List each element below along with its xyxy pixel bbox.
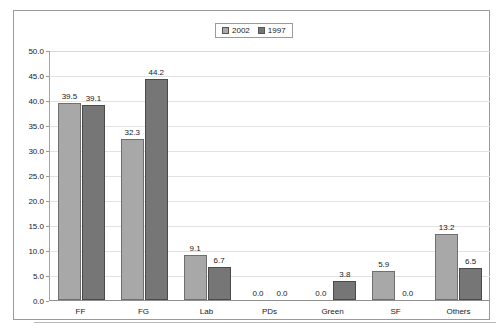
plot-area: 39.539.132.344.29.16.70.00.00.03.85.90.0… xyxy=(49,51,490,301)
x-axis-tick-label: Others xyxy=(427,307,490,316)
y-axis-tick-label: 30.0 xyxy=(28,147,44,156)
bar-group: 5.90.0 xyxy=(364,51,427,300)
bar-group: 13.26.5 xyxy=(427,51,490,300)
bar[interactable] xyxy=(333,281,356,300)
legend-entry-2002: 2002 xyxy=(222,27,250,35)
x-axis-tick-label: Green xyxy=(301,307,364,316)
bar-value-label: 0.0 xyxy=(402,290,413,298)
bar[interactable] xyxy=(145,79,168,300)
bar-group: 9.16.7 xyxy=(176,51,239,300)
bar-value-label: 39.5 xyxy=(62,93,78,101)
bar-value-label: 6.5 xyxy=(465,258,476,266)
y-axis-tick-mark xyxy=(46,301,49,302)
y-axis-tick-label: 35.0 xyxy=(28,122,44,131)
bar[interactable] xyxy=(372,271,395,301)
bar-value-label: 9.1 xyxy=(190,245,201,253)
y-axis-tick-label: 5.0 xyxy=(33,272,44,281)
bar-value-label: 13.2 xyxy=(439,224,455,232)
bar-slot: 39.5 xyxy=(58,51,81,300)
bar[interactable] xyxy=(58,103,81,301)
bar[interactable] xyxy=(435,234,458,300)
bar-slot: 5.9 xyxy=(372,51,395,300)
y-axis-tick-label: 45.0 xyxy=(28,72,44,81)
bar-group: 39.539.1 xyxy=(50,51,113,300)
x-axis-rule xyxy=(34,322,496,323)
bar-slot: 3.8 xyxy=(333,51,356,300)
bar-value-label: 44.2 xyxy=(148,69,164,77)
y-axis-tick-label: 25.0 xyxy=(28,172,44,181)
bar[interactable] xyxy=(459,268,482,301)
bar-value-label: 3.8 xyxy=(339,271,350,279)
legend-swatch-2002 xyxy=(222,27,229,34)
x-axis-tick-label: FG xyxy=(112,307,175,316)
bar[interactable] xyxy=(208,267,231,301)
bar-groups: 39.539.132.344.29.16.70.00.00.03.85.90.0… xyxy=(50,51,490,300)
y-axis-tick-label: 10.0 xyxy=(28,247,44,256)
legend-swatch-1997 xyxy=(258,27,265,34)
bar-group: 0.03.8 xyxy=(301,51,364,300)
bar-group: 32.344.2 xyxy=(113,51,176,300)
bar-slot: 6.5 xyxy=(459,51,482,300)
chart-legend: 2002 1997 xyxy=(215,23,293,38)
bar-slot: 0.0 xyxy=(309,51,332,300)
bar[interactable] xyxy=(82,105,105,301)
bar-slot: 39.1 xyxy=(82,51,105,300)
bar-slot: 6.7 xyxy=(208,51,231,300)
bar-slot: 13.2 xyxy=(435,51,458,300)
bar-slot: 9.1 xyxy=(184,51,207,300)
legend-entry-1997: 1997 xyxy=(258,27,286,35)
y-axis-tick-label: 15.0 xyxy=(28,222,44,231)
y-axis-tick-label: 20.0 xyxy=(28,197,44,206)
chart-frame: 2002 1997 0.05.010.015.020.025.030.035.0… xyxy=(13,10,490,320)
x-axis-tick-label: PDs xyxy=(238,307,301,316)
bar-value-label: 0.0 xyxy=(315,290,326,298)
y-axis-labels: 0.05.010.015.020.025.030.035.040.045.050… xyxy=(14,51,49,301)
bar-value-label: 5.9 xyxy=(378,261,389,269)
bar-slot: 0.0 xyxy=(247,51,270,300)
bar[interactable] xyxy=(121,139,144,301)
x-axis-tick-label: FF xyxy=(49,307,112,316)
bar-slot: 0.0 xyxy=(396,51,419,300)
bar-value-label: 39.1 xyxy=(86,95,102,103)
bar-value-label: 0.0 xyxy=(252,290,263,298)
bar[interactable] xyxy=(184,255,207,301)
bar-value-label: 0.0 xyxy=(276,290,287,298)
bar-value-label: 6.7 xyxy=(214,257,225,265)
bar-slot: 0.0 xyxy=(271,51,294,300)
bar-value-label: 32.3 xyxy=(124,129,140,137)
legend-label-2002: 2002 xyxy=(232,27,250,35)
bar-slot: 44.2 xyxy=(145,51,168,300)
legend-label-1997: 1997 xyxy=(268,27,286,35)
x-axis-tick-label: Lab xyxy=(175,307,238,316)
y-axis-tick-label: 50.0 xyxy=(28,47,44,56)
x-axis-tick-label: SF xyxy=(364,307,427,316)
bar-group: 0.00.0 xyxy=(239,51,302,300)
y-axis-tick-label: 0.0 xyxy=(33,297,44,306)
y-axis-tick-label: 40.0 xyxy=(28,97,44,106)
bar-slot: 32.3 xyxy=(121,51,144,300)
x-axis-labels: FFFGLabPDsGreenSFOthers xyxy=(49,307,490,316)
